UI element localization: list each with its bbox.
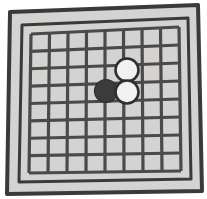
- white-stone-lower[interactable]: [116, 81, 139, 104]
- white-stone-upper[interactable]: [116, 59, 139, 82]
- black-stone[interactable]: [95, 80, 118, 103]
- go-board[interactable]: [0, 0, 207, 199]
- go-board-figure: Go board diagram Hand-drawn tilted go bo…: [0, 0, 207, 199]
- grid-line-horizontal: [29, 171, 181, 173]
